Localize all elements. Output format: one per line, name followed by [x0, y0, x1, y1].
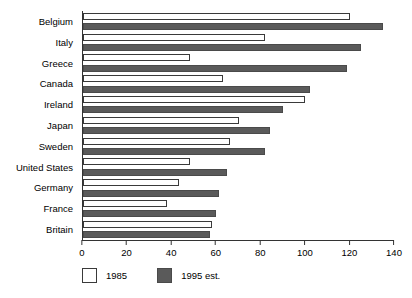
- bar-row-italy: [83, 32, 394, 53]
- bar-chart: Belgium Italy Greece Canada Ireland Japa…: [0, 0, 412, 298]
- x-tick-mark-20: [126, 240, 127, 245]
- bar-cell-britain-1985: [83, 219, 394, 229]
- bar-ireland-1985: [83, 96, 305, 103]
- x-tick-100: 100: [297, 240, 313, 258]
- legend-label-1995: 1995 est.: [181, 270, 220, 281]
- bar-cell-britain-1995-est: [83, 230, 394, 240]
- bar-cell-greece-1985: [83, 53, 394, 63]
- bar-cell-sweden-1995-est: [83, 146, 394, 156]
- x-tick-label-40: 40: [166, 247, 177, 258]
- y-axis-label-canada: Canada: [0, 73, 78, 94]
- bar-cell-united-states-1985: [83, 157, 394, 167]
- x-tick-label-20: 20: [121, 247, 132, 258]
- y-axis-label-belgium: Belgium: [0, 11, 78, 32]
- x-tick-80: 80: [255, 240, 266, 258]
- bar-cell-japan-1995-est: [83, 125, 394, 135]
- legend: 1985 1995 est.: [82, 268, 250, 283]
- x-tick-mark-60: [215, 240, 216, 245]
- bar-cell-japan-1985: [83, 115, 394, 125]
- bar-ireland-1995-est: [83, 106, 283, 113]
- bar-cell-germany-1995-est: [83, 188, 394, 198]
- bar-cell-ireland-1995-est: [83, 105, 394, 115]
- x-tick-label-0: 0: [79, 247, 84, 258]
- legend-swatch-1995-icon: [157, 268, 172, 283]
- bar-row-germany: [83, 178, 394, 199]
- bar-germany-1985: [83, 179, 179, 186]
- bar-cell-belgium-1985: [83, 11, 394, 21]
- x-tick-label-120: 120: [341, 247, 357, 258]
- bar-italy-1985: [83, 34, 265, 41]
- bar-row-canada: [83, 73, 394, 94]
- x-tick-0: 0: [79, 240, 84, 258]
- y-axis-category-labels: Belgium Italy Greece Canada Ireland Japa…: [0, 11, 78, 240]
- x-tick-mark-0: [81, 240, 82, 245]
- bar-cell-france-1985: [83, 198, 394, 208]
- bar-cell-canada-1995-est: [83, 84, 394, 94]
- bar-germany-1995-est: [83, 190, 219, 197]
- bar-row-france: [83, 198, 394, 219]
- x-tick-mark-100: [304, 240, 305, 245]
- bar-cell-france-1995-est: [83, 209, 394, 219]
- bar-row-greece: [83, 53, 394, 74]
- bar-cell-germany-1985: [83, 178, 394, 188]
- bar-japan-1995-est: [83, 127, 270, 134]
- bar-france-1995-est: [83, 210, 216, 217]
- bar-row-sweden: [83, 136, 394, 157]
- bar-cell-italy-1995-est: [83, 42, 394, 52]
- x-tick-mark-140: [393, 240, 394, 245]
- plot-area: [82, 11, 394, 240]
- x-tick-140: 140: [386, 240, 402, 258]
- bar-canada-1985: [83, 75, 223, 82]
- x-tick-mark-120: [349, 240, 350, 245]
- bar-row-united-states: [83, 157, 394, 178]
- bar-cell-sweden-1985: [83, 136, 394, 146]
- bar-sweden-1995-est: [83, 148, 265, 155]
- bar-italy-1995-est: [83, 44, 361, 51]
- bar-cell-italy-1985: [83, 32, 394, 42]
- bar-britain-1985: [83, 221, 212, 228]
- x-tick-label-60: 60: [210, 247, 221, 258]
- y-axis-label-greece: Greece: [0, 53, 78, 74]
- bar-cell-greece-1995-est: [83, 63, 394, 73]
- legend-label-1985: 1985: [106, 270, 127, 281]
- legend-item-1985: 1985: [82, 268, 127, 283]
- bar-japan-1985: [83, 117, 239, 124]
- bar-united-states-1985: [83, 158, 190, 165]
- bar-row-japan: [83, 115, 394, 136]
- legend-swatch-1985-icon: [82, 268, 97, 283]
- bar-row-britain: [83, 219, 394, 240]
- x-tick-20: 20: [121, 240, 132, 258]
- x-tick-label-140: 140: [386, 247, 402, 258]
- x-axis-ticks: 020406080100120140: [82, 240, 394, 262]
- bar-canada-1995-est: [83, 86, 310, 93]
- y-axis-label-britain: Britain: [0, 219, 78, 240]
- y-axis-label-germany: Germany: [0, 178, 78, 199]
- bar-cell-canada-1985: [83, 73, 394, 83]
- y-axis-label-japan: Japan: [0, 115, 78, 136]
- y-axis-label-ireland: Ireland: [0, 94, 78, 115]
- bar-row-ireland: [83, 94, 394, 115]
- x-tick-mark-80: [260, 240, 261, 245]
- x-tick-60: 60: [210, 240, 221, 258]
- bar-row-belgium: [83, 11, 394, 32]
- x-tick-40: 40: [166, 240, 177, 258]
- x-tick-120: 120: [341, 240, 357, 258]
- bar-rows: [83, 11, 394, 240]
- bar-cell-ireland-1985: [83, 94, 394, 104]
- bar-cell-united-states-1995-est: [83, 167, 394, 177]
- y-axis-label-italy: Italy: [0, 32, 78, 53]
- bar-united-states-1995-est: [83, 169, 227, 176]
- x-tick-label-80: 80: [255, 247, 266, 258]
- x-tick-label-100: 100: [297, 247, 313, 258]
- y-axis-label-united-states: United States: [0, 157, 78, 178]
- bar-sweden-1985: [83, 138, 230, 145]
- bar-cell-belgium-1995-est: [83, 21, 394, 31]
- legend-item-1995: 1995 est.: [157, 268, 220, 283]
- x-tick-mark-40: [171, 240, 172, 245]
- bar-britain-1995-est: [83, 231, 210, 238]
- y-axis-label-france: France: [0, 198, 78, 219]
- bar-greece-1985: [83, 54, 190, 61]
- bar-greece-1995-est: [83, 65, 347, 72]
- bar-france-1985: [83, 200, 167, 207]
- bar-belgium-1995-est: [83, 23, 383, 30]
